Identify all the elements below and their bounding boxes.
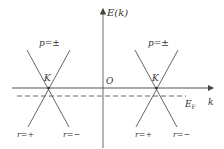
diagram-canvas: E(k) k O EF p=± K r=+ r=− p=± K r=+ r=− (0, 0, 224, 149)
energy-axis-label: E(k) (106, 7, 128, 18)
cone-left-r-plus-label: r=+ (17, 130, 34, 139)
fermi-level-label: EF (184, 99, 196, 110)
momentum-axis-label: k (208, 97, 213, 107)
band-structure-diagram: E(k) k O EF p=± K r=+ r=− p=± K r=+ r=− (0, 0, 224, 149)
cone-right-vertex-label: K (151, 73, 160, 83)
cone-right-top-label: p=± (148, 38, 169, 48)
cone-left-vertex-label: K (43, 73, 52, 83)
cone-right-r-minus-label: r=− (173, 130, 190, 139)
cone-left-r-minus-label: r=− (63, 130, 80, 139)
cone-left-top-label: p=± (39, 38, 60, 48)
cone-right-r-plus-label: r=+ (135, 130, 152, 139)
origin-label: O (106, 76, 114, 86)
